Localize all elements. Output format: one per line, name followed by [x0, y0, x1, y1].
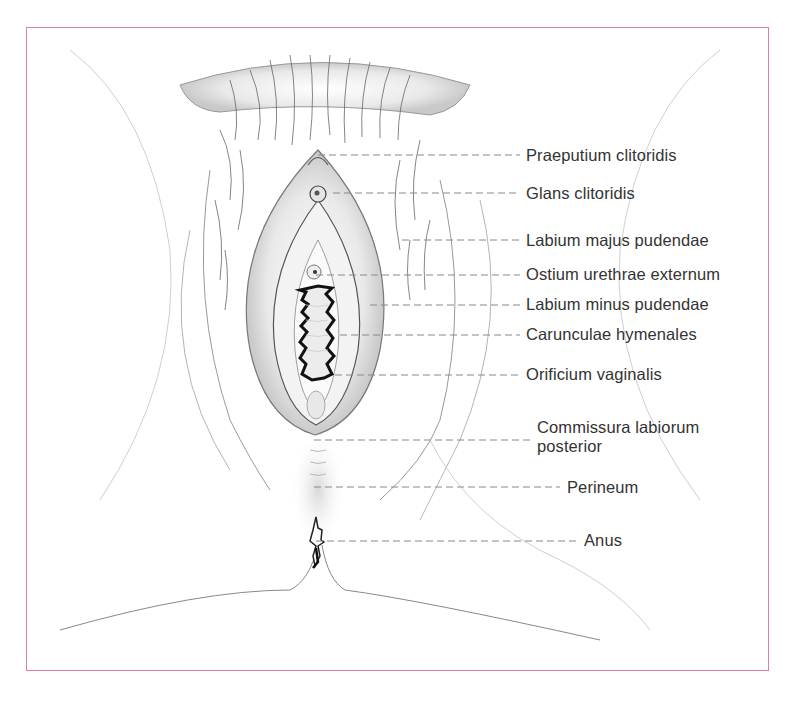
label-labium-majus-pudendae: Labium majus pudendae: [526, 231, 709, 250]
label-praeputium-clitoridis: Praeputium clitoridis: [526, 146, 677, 165]
label-anus: Anus: [584, 531, 622, 550]
label-orificium-vaginalis: Orificium vaginalis: [526, 365, 662, 384]
label-perineum: Perineum: [567, 478, 638, 497]
label-ostium-urethrae-externum: Ostium urethrae externum: [526, 265, 720, 284]
label-carunculae-hymenales: Carunculae hymenales: [526, 325, 697, 344]
label-commissura-labiorum-posterior: Commissura labiorum posterior: [537, 418, 699, 456]
label-glans-clitoridis: Glans clitoridis: [526, 184, 635, 203]
anatomical-illustration: [0, 0, 793, 704]
label-commissura-line2: posterior: [537, 437, 699, 456]
label-labium-minus-pudendae: Labium minus pudendae: [526, 295, 709, 314]
label-commissura-line1: Commissura labiorum: [537, 418, 699, 437]
